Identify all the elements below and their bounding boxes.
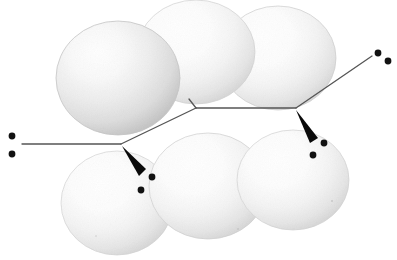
sphere-bottom-right-body <box>237 130 349 230</box>
electron-dot <box>375 50 382 57</box>
electron-dot <box>9 151 16 158</box>
sphere-bottom-right <box>237 130 349 230</box>
electron-dot <box>9 133 16 140</box>
electron-dot <box>149 174 156 181</box>
speckle <box>237 228 239 230</box>
sphere-top-left-body <box>56 21 180 135</box>
molecular-structure-figure <box>0 0 397 260</box>
speckle <box>95 235 97 237</box>
electron-dot <box>138 187 145 194</box>
electron-dot <box>310 152 317 159</box>
speckle <box>331 200 333 202</box>
electron-dot <box>385 58 392 65</box>
electron-dot <box>321 140 328 147</box>
sphere-top-left <box>56 21 180 135</box>
figure-canvas <box>0 0 397 260</box>
